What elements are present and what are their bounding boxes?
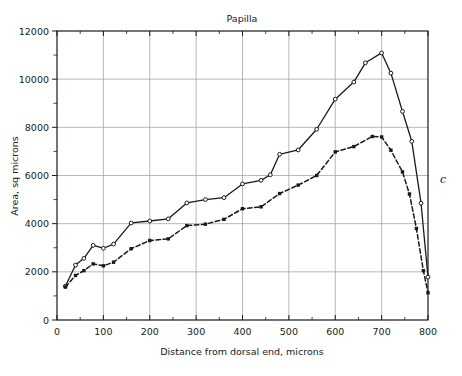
y-tick-label: 0 [43, 315, 49, 326]
y-tick-label: 10000 [19, 74, 49, 85]
data-point-marker-open-circle [389, 71, 393, 75]
data-point-marker-open-circle [401, 110, 405, 114]
data-point-marker-filled-square [74, 274, 77, 277]
data-point-marker-open-circle [296, 148, 300, 152]
data-point-marker-filled-square [241, 207, 244, 210]
data-point-marker-filled-square [82, 269, 85, 272]
data-point-marker-filled-square [389, 149, 392, 152]
data-point-marker-open-circle [112, 242, 116, 246]
data-point-marker-filled-square [422, 269, 425, 272]
data-point-marker-open-circle [204, 198, 208, 202]
data-point-marker-open-circle [129, 221, 133, 225]
x-tick-label: 0 [54, 326, 60, 337]
data-point-marker-filled-square [371, 135, 374, 138]
data-point-marker-open-circle [410, 139, 414, 143]
data-point-marker-open-circle [101, 246, 105, 250]
data-point-marker-open-circle [333, 97, 337, 101]
data-point-marker-filled-square [334, 150, 337, 153]
data-point-marker-open-circle [91, 243, 95, 247]
x-tick-label: 800 [419, 326, 437, 337]
data-point-marker-open-circle [352, 80, 356, 84]
x-tick-label: 200 [141, 326, 159, 337]
data-point-marker-open-circle [380, 51, 384, 55]
data-point-marker-open-circle [419, 201, 423, 205]
data-point-marker-filled-square [148, 239, 151, 242]
data-point-marker-filled-square [408, 192, 411, 195]
data-point-marker-open-circle [166, 217, 170, 221]
data-point-marker-filled-square [130, 247, 133, 250]
x-axis-label: Distance from dorsal end, microns [160, 346, 323, 357]
data-point-marker-open-circle [185, 201, 189, 205]
data-point-marker-filled-square [112, 261, 115, 264]
y-tick-label: 8000 [25, 122, 49, 133]
data-point-marker-filled-square [352, 145, 355, 148]
x-tick-label: 100 [94, 326, 112, 337]
papilla-area-line-chart: 0100200300400500600700800 02000400060008… [0, 0, 462, 376]
data-point-marker-open-circle [268, 173, 272, 177]
x-tick-label: 600 [326, 326, 344, 337]
y-tick-label: 6000 [25, 170, 49, 181]
data-point-marker-open-circle [82, 256, 86, 260]
data-point-marker-open-circle [74, 263, 78, 267]
data-point-marker-filled-square [401, 170, 404, 173]
data-point-marker-open-circle [259, 178, 263, 182]
chart-title: Papilla [227, 13, 258, 24]
data-point-marker-filled-square [167, 237, 170, 240]
data-point-marker-open-circle [315, 127, 319, 131]
data-point-marker-filled-square [204, 222, 207, 225]
data-point-marker-open-circle [426, 275, 430, 279]
y-tick-label: 4000 [25, 218, 49, 229]
data-point-marker-filled-square [426, 291, 429, 294]
y-tick-label: 2000 [25, 266, 49, 277]
data-point-marker-open-circle [148, 219, 152, 223]
data-point-marker-filled-square [185, 224, 188, 227]
data-point-marker-filled-square [102, 264, 105, 267]
x-tick-label: 300 [187, 326, 205, 337]
data-point-marker-open-circle [241, 182, 245, 186]
x-tick-label: 700 [373, 326, 391, 337]
data-point-marker-open-circle [363, 61, 367, 65]
x-tick-label: 400 [233, 326, 251, 337]
chart-figure: 0100200300400500600700800 02000400060008… [0, 0, 462, 376]
data-point-marker-filled-square [222, 218, 225, 221]
data-point-marker-open-circle [222, 196, 226, 200]
x-axis-tick-labels: 0100200300400500600700800 [54, 326, 437, 337]
data-point-marker-filled-square [296, 183, 299, 186]
y-tick-label: 12000 [19, 26, 49, 37]
data-point-marker-filled-square [278, 192, 281, 195]
panel-label-c: c [440, 173, 446, 186]
data-point-marker-filled-square [64, 285, 67, 288]
y-axis-label: Area, sq microns [9, 136, 20, 216]
data-point-marker-filled-square [415, 227, 418, 230]
data-point-marker-filled-square [380, 135, 383, 138]
data-point-marker-filled-square [259, 205, 262, 208]
data-point-marker-filled-square [315, 174, 318, 177]
data-point-marker-open-circle [278, 152, 282, 156]
x-tick-label: 500 [280, 326, 298, 337]
data-point-marker-filled-square [91, 262, 94, 265]
